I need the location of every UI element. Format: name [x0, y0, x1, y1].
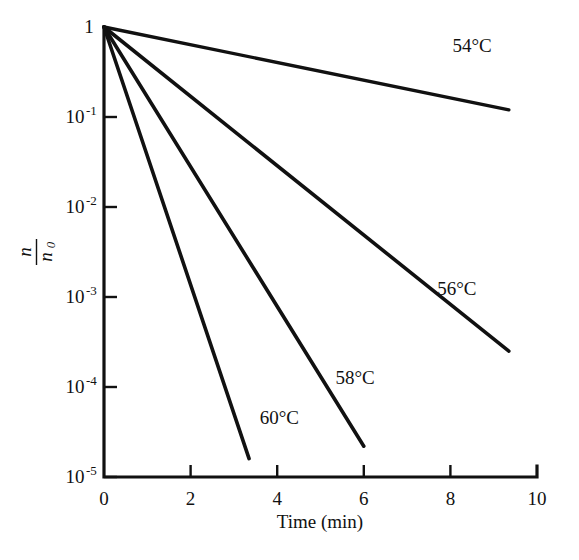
x-tick-label-5: 10 — [528, 488, 547, 509]
y-tick-label-exponent-3: -3 — [86, 283, 97, 298]
x-axis-tick-labels: 0246810 — [99, 488, 546, 509]
series-annotation-group: 54°C56°C58°C60°C — [260, 35, 492, 428]
series-label-60degC: 60°C — [260, 407, 299, 428]
series-label-58degC: 58°C — [335, 367, 374, 388]
x-tick-label-4: 8 — [446, 488, 456, 509]
y-axis-tick-labels: 110-110-210-310-410-5 — [66, 16, 98, 487]
data-line-60degC — [104, 27, 249, 459]
y-tick-label-3: 10-3 — [66, 283, 97, 307]
y-tick-label-exponent-5: -5 — [86, 463, 97, 478]
data-series-group — [104, 27, 509, 459]
y-axis-label: n n 0 — [14, 239, 58, 265]
data-line-56degC — [104, 27, 509, 351]
y-tick-label-mantissa-4: 10 — [66, 376, 85, 397]
y-tick-label-mantissa-0: 1 — [84, 16, 94, 37]
x-axis-label: Time (min) — [277, 511, 363, 533]
y-tick-label-0: 1 — [84, 16, 94, 37]
y-tick-label-mantissa-5: 10 — [66, 466, 85, 487]
y-axis-label-numerator: n — [14, 247, 35, 257]
y-tick-label-mantissa-2: 10 — [66, 196, 85, 217]
semilog-decay-plot: 110-110-210-310-410-5 0246810 54°C56°C58… — [0, 0, 579, 560]
series-label-56degC: 56°C — [437, 278, 476, 299]
y-tick-label-1: 10-1 — [66, 103, 97, 127]
y-tick-label-mantissa-1: 10 — [66, 106, 85, 127]
chart-figure: 110-110-210-310-410-5 0246810 54°C56°C58… — [0, 0, 579, 560]
y-tick-label-2: 10-2 — [66, 193, 97, 217]
series-label-54degC: 54°C — [452, 35, 491, 56]
y-tick-label-exponent-1: -1 — [86, 103, 97, 118]
axes-group — [104, 27, 537, 477]
y-tick-label-4: 10-4 — [66, 373, 98, 397]
axis-lines — [104, 27, 537, 477]
data-line-54degC — [104, 27, 509, 110]
y-tick-label-exponent-4: -4 — [86, 373, 97, 388]
y-tick-label-5: 10-5 — [66, 463, 97, 487]
y-tick-label-exponent-2: -2 — [86, 193, 97, 208]
x-axis-ticks — [191, 465, 451, 477]
x-tick-label-0: 0 — [99, 488, 109, 509]
y-tick-label-mantissa-3: 10 — [66, 286, 85, 307]
y-axis-label-denominator: n — [35, 252, 56, 262]
x-tick-label-2: 4 — [272, 488, 282, 509]
x-tick-label-3: 6 — [359, 488, 369, 509]
y-axis-ticks — [104, 117, 117, 477]
data-line-58degC — [104, 27, 364, 446]
x-tick-label-1: 2 — [186, 488, 196, 509]
y-axis-label-denominator-subscript: 0 — [43, 241, 58, 248]
